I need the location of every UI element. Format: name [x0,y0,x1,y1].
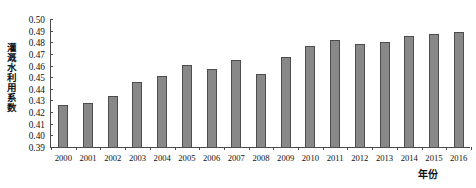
y-tick-mark [50,19,53,20]
bar-2001 [83,103,93,148]
bar-2008 [256,74,266,148]
y-tick-label: 0.48 [6,38,50,48]
y-tick-mark [50,31,53,32]
y-tick-mark [50,100,53,101]
y-axis-line [50,20,51,148]
y-tick-mark [50,89,53,90]
bar-2015 [429,34,439,148]
bar-2016 [454,32,464,148]
y-tick-label: 0.50 [6,15,50,25]
x-tick-mark [422,147,423,150]
bar-2010 [305,46,315,148]
y-tick-0.46: 0.46 [6,62,50,72]
y-tick-0.40: 0.40 [6,131,50,141]
x-tick-mark [397,147,398,150]
bar-2007 [231,60,241,148]
y-tick-mark [50,42,53,43]
x-tick-label-2016: 2016 [442,153,476,163]
y-tick-label: 0.39 [6,143,50,153]
bar-2012 [355,44,365,148]
bar-2005 [182,65,192,148]
y-tick-0.39: 0.39 [6,143,50,153]
bar-2000 [58,105,68,148]
bar-2003 [132,82,142,148]
x-axis-title: 年份 [398,166,458,181]
y-tick-0.48: 0.48 [6,38,50,48]
x-tick-mark [298,147,299,150]
y-tick-mark [50,66,53,67]
y-tick-0.41: 0.41 [6,120,50,130]
y-tick-mark [50,54,53,55]
y-tick-label: 0.41 [6,120,50,130]
y-tick-0.44: 0.44 [6,85,50,95]
x-tick-mark [224,147,225,150]
bar-2006 [207,69,217,148]
y-tick-label: 0.40 [6,131,50,141]
y-tick-0.43: 0.43 [6,96,50,106]
bar-2013 [380,42,390,148]
x-tick-mark [347,147,348,150]
x-tick-mark [125,147,126,150]
y-tick-0.42: 0.42 [6,108,50,118]
x-tick-mark [199,147,200,150]
x-tick-mark [175,147,176,150]
x-tick-mark [76,147,77,150]
y-tick-0.45: 0.45 [6,73,50,83]
bar-2014 [404,36,414,148]
y-tick-mark [50,124,53,125]
y-tick-mark [50,77,53,78]
y-tick-label: 0.44 [6,85,50,95]
x-tick-mark [446,147,447,150]
bar-2009 [281,57,291,148]
y-tick-label: 0.47 [6,50,50,60]
x-tick-mark [100,147,101,150]
y-tick-0.50: 0.50 [6,15,50,25]
y-tick-0.49: 0.49 [6,27,50,37]
x-tick-mark [249,147,250,150]
y-tick-0.47: 0.47 [6,50,50,60]
y-tick-label: 0.46 [6,62,50,72]
y-tick-mark [50,135,53,136]
y-tick-label: 0.49 [6,27,50,37]
x-tick-mark [471,147,472,150]
y-tick-label: 0.43 [6,96,50,106]
y-tick-label: 0.45 [6,73,50,83]
x-tick-mark [372,147,373,150]
plot-area: 0.500.490.480.470.460.450.440.430.420.41… [50,20,470,148]
x-tick-mark [150,147,151,150]
y-tick-label: 0.42 [6,108,50,118]
x-tick-mark [51,147,52,150]
bar-2004 [157,76,167,148]
bar-2011 [330,40,340,148]
x-tick-mark [273,147,274,150]
x-tick-mark [323,147,324,150]
bar-chart: 灌溉水利用系数 0.500.490.480.470.460.450.440.43… [0,0,476,188]
bar-2002 [108,96,118,148]
y-tick-mark [50,112,53,113]
